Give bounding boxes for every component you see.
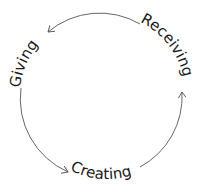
stage-label-creating: Creating <box>68 157 133 183</box>
arrow-receiving-to-giving <box>48 13 140 32</box>
arrow-giving-to-creating <box>20 88 68 172</box>
cycle-diagram: Receiving Giving Creating <box>0 0 200 194</box>
arrow-creating-to-receiving <box>140 92 182 167</box>
stage-label-giving: Giving <box>6 36 42 89</box>
stage-label-receiving: Receiving <box>138 10 197 79</box>
